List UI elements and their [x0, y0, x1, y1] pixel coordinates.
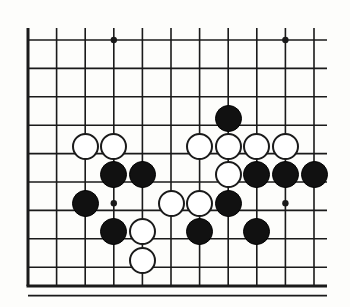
white-stone: [129, 247, 156, 274]
go-board-diagram: [0, 0, 350, 307]
black-stone: [301, 161, 328, 188]
white-stone: [215, 161, 242, 188]
white-stone: [129, 218, 156, 245]
star-point: [111, 37, 117, 43]
star-point: [282, 200, 288, 206]
star-point: [282, 37, 288, 43]
white-stone: [186, 190, 213, 217]
white-stone: [215, 133, 242, 160]
go-board-grid: [0, 0, 350, 307]
black-stone: [215, 105, 242, 132]
star-point: [111, 200, 117, 206]
white-stone: [186, 133, 213, 160]
white-stone: [272, 133, 299, 160]
black-stone: [215, 190, 242, 217]
white-stone: [72, 133, 99, 160]
white-stone: [158, 190, 185, 217]
black-stone: [72, 190, 99, 217]
